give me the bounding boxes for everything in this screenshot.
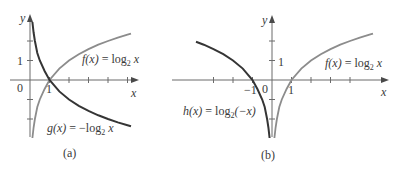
- panel-b-origin-label: 0: [262, 82, 268, 96]
- panel-a-x-axis-arrow-icon: [131, 77, 139, 83]
- panel-b-h-label: h(x) = log2(−x): [183, 104, 256, 120]
- panel-b: y x 0 1 −1 1 f(x) = log2 x h(x) = log2(−…: [172, 13, 389, 162]
- panel-a-y-tick-label: 1: [17, 54, 23, 68]
- panel-b-axes: [172, 15, 389, 137]
- panel-b-curve-h: [196, 42, 270, 138]
- panel-a-axes: [10, 14, 139, 137]
- panel-b-f-label: f(x) = log2 x: [325, 56, 383, 72]
- panel-b-x-axis-label: x: [380, 85, 387, 99]
- panel-b-x-axis-arrow-icon: [381, 77, 389, 83]
- panel-a-g-label: g(x) = −log2 x: [47, 121, 114, 137]
- panel-b-y-tick-label: 1: [278, 55, 284, 69]
- panel-a-y-axis-label: y: [19, 11, 26, 25]
- panel-b-y-axis-label: y: [261, 13, 268, 27]
- panel-a-origin-label: 0: [17, 81, 23, 95]
- panel-b-curve-f: [274, 34, 373, 138]
- panel-a-caption: (a): [63, 146, 76, 160]
- panel-a-y-axis-arrow-icon: [27, 14, 33, 22]
- panel-b-y-axis-arrow-icon: [269, 15, 275, 23]
- log-graphs-figure: y x 0 1 1 f(x) = log2 x g(x) = −log2 x (…: [0, 0, 396, 171]
- panel-b-caption: (b): [261, 148, 275, 162]
- panel-a: y x 0 1 1 f(x) = log2 x g(x) = −log2 x (…: [10, 11, 140, 160]
- panel-a-f-label: f(x) = log2 x: [82, 52, 140, 68]
- panel-a-x-axis-label: x: [130, 86, 137, 100]
